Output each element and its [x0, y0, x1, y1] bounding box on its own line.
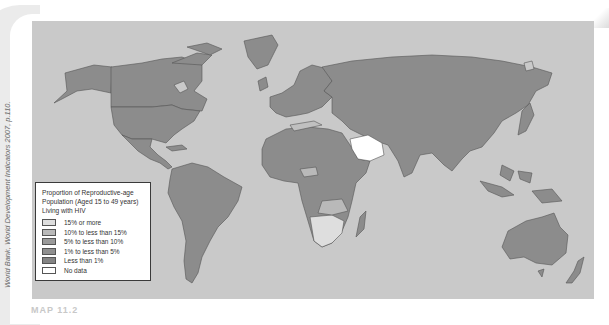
new-zealand: [566, 257, 584, 283]
legend-label: 10% to less than 15%: [64, 229, 127, 236]
legend-item: 1% to less than 5%: [42, 247, 144, 257]
legend-swatch: [42, 257, 56, 264]
legend-title: Proportion of Reproductive-age Populatio…: [42, 188, 144, 215]
legend-title-line-1: Proportion of Reproductive-age: [42, 188, 144, 197]
legend-item: 5% to less than 10%: [42, 237, 144, 247]
south-america: [168, 163, 242, 283]
legend-swatch: [42, 219, 56, 226]
legend-item: 15% or more: [42, 218, 144, 228]
legend-title-line-2: Population (Aged 15 to 49 years): [42, 197, 144, 206]
legend-swatch: [42, 229, 56, 236]
legend-title-line-3: Living with HIV: [42, 206, 144, 215]
legend-label: Less than 1%: [64, 257, 103, 264]
legend-label: 5% to less than 10%: [64, 238, 123, 245]
southern-africa-high: [310, 215, 344, 247]
europe: [270, 65, 332, 117]
legend-label: 1% to less than 5%: [64, 248, 120, 255]
legend-items: 15% or more 10% to less than 15% 5% to l…: [42, 218, 144, 275]
map-caption-fragment: MAP 11.2: [31, 305, 78, 315]
legend-label: 15% or more: [64, 219, 101, 226]
alaska: [54, 65, 112, 103]
greenland: [244, 35, 278, 69]
madagascar: [356, 211, 366, 237]
legend-swatch: [42, 238, 56, 245]
map-legend: Proportion of Reproductive-age Populatio…: [35, 182, 151, 281]
source-credit: World Bank, World Development Indicators…: [3, 101, 12, 288]
australia: [502, 213, 568, 265]
legend-item: Less than 1%: [42, 256, 144, 266]
legend-swatch: [42, 248, 56, 255]
legend-label: No data: [64, 267, 87, 274]
legend-item: No data: [42, 266, 144, 276]
legend-swatch: [42, 267, 56, 274]
legend-item: 10% to less than 15%: [42, 228, 144, 238]
